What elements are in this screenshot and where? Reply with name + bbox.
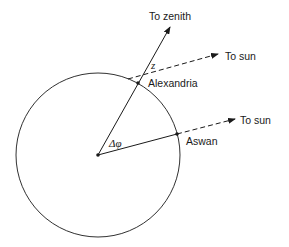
angle-z-label: z bbox=[150, 59, 156, 71]
sun-label-bottom: To sun bbox=[240, 114, 271, 126]
aswan-label: Aswan bbox=[186, 135, 218, 147]
sun-ray-aswan bbox=[177, 119, 235, 134]
sun-ray-alexandria bbox=[128, 54, 218, 79]
eratosthenes-diagram: To zenith To sun To sun Alexandria Aswan… bbox=[0, 0, 289, 247]
zenith-label: To zenith bbox=[149, 10, 191, 22]
alexandria-point bbox=[136, 81, 140, 85]
zenith-line bbox=[98, 27, 170, 155]
aswan-point bbox=[175, 132, 179, 136]
angle-dphi-label: Δφ bbox=[108, 137, 122, 149]
center-point bbox=[96, 153, 100, 157]
alexandria-label: Alexandria bbox=[148, 77, 198, 89]
sun-label-top: To sun bbox=[225, 50, 256, 62]
